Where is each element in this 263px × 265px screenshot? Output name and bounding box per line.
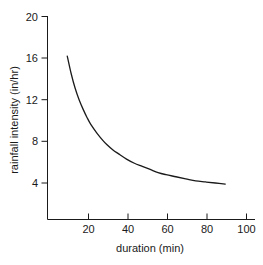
chart-container: 20 16 12 8 4 20 40 60 80 100 duration (m… [0, 0, 263, 265]
x-axis-title: duration (min) [116, 242, 184, 254]
x-tick-label-40: 40 [122, 223, 134, 235]
x-tick-label-60: 60 [161, 223, 173, 235]
x-tick-label-20: 20 [82, 223, 94, 235]
x-tick-label-80: 80 [201, 223, 213, 235]
rainfall-intensity-duration-chart: 20 16 12 8 4 20 40 60 80 100 duration (m… [0, 0, 263, 265]
x-tick-label-100: 100 [237, 223, 255, 235]
y-axis-title: rainfall intensity (in/hr) [8, 66, 20, 174]
y-tick-label-8: 8 [32, 135, 38, 147]
y-tick-label-20: 20 [26, 11, 38, 23]
y-tick-label-16: 16 [26, 52, 38, 64]
y-tick-label-12: 12 [26, 94, 38, 106]
y-tick-label-4: 4 [32, 177, 38, 189]
